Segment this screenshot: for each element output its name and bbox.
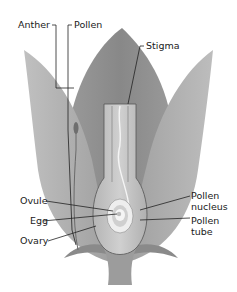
label-pollen-tube-line2: tube <box>191 226 213 237</box>
label-pollen-nucleus-line1: Pollen <box>191 190 219 201</box>
label-ovary: Ovary <box>20 235 49 246</box>
flower-diagram: Anther Pollen Stigma Ovule Egg Ovary Pol… <box>0 0 237 292</box>
label-stigma: Stigma <box>146 40 180 51</box>
label-pollen-tube-line1: Pollen <box>191 215 219 226</box>
label-anther: Anther <box>18 19 50 30</box>
label-pollen: Pollen <box>74 19 102 30</box>
label-egg: Egg <box>30 215 48 226</box>
label-pollen-nucleus-line2: nucleus <box>191 201 228 212</box>
label-ovule: Ovule <box>20 195 48 206</box>
anther <box>74 122 79 134</box>
egg <box>117 212 121 216</box>
